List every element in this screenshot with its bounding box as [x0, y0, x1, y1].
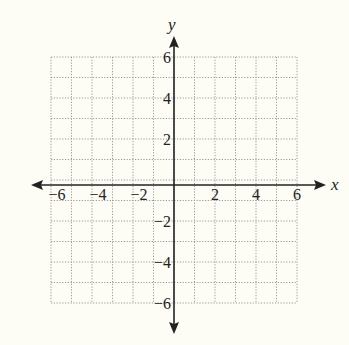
x-tick-label: 6 [293, 186, 301, 203]
x-tick-label: 2 [211, 186, 219, 203]
y-tick-label: 6 [163, 49, 171, 66]
y-tick-label: 2 [163, 131, 171, 148]
y-tick-label: −4 [154, 254, 171, 271]
y-tick-label: −2 [154, 213, 171, 230]
y-axis-label: y [166, 15, 176, 34]
y-tick-label: 4 [163, 90, 171, 107]
y-tick-labels: 6 4 2 −2 −4 −6 [154, 49, 171, 312]
y-tick-label: −6 [154, 295, 171, 312]
x-axis-label: x [330, 175, 339, 194]
x-tick-label: −2 [130, 186, 147, 203]
x-tick-label: −4 [89, 186, 106, 203]
x-tick-label: 4 [252, 186, 260, 203]
x-tick-label: −6 [48, 186, 65, 203]
coordinate-plane: x y −6 −4 −2 2 4 6 6 4 2 −2 −4 −6 [0, 0, 349, 345]
